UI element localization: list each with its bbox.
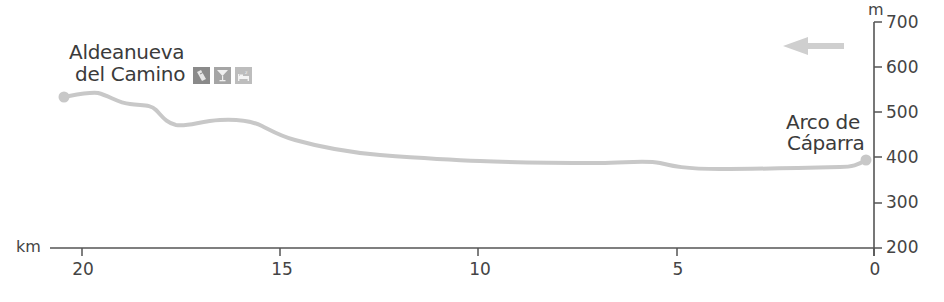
y-axis-unit: m — [868, 0, 884, 19]
y-axis-ticks — [874, 22, 882, 248]
y-tick-300: 300 — [886, 192, 918, 212]
end-location-label-line2: Cáparra — [787, 133, 864, 154]
elevation-line — [64, 93, 866, 169]
y-tick-200: 200 — [886, 237, 918, 257]
end-point-marker — [861, 155, 872, 166]
x-tick-0: 0 — [870, 259, 881, 279]
elevation-profile-chart: Aldeanueva del Camino z — [0, 0, 944, 302]
svg-text:z: z — [245, 70, 248, 75]
x-tick-10: 10 — [469, 259, 491, 279]
direction-arrow-icon — [783, 37, 844, 55]
x-tick-5: 5 — [673, 259, 684, 279]
service-icons: z — [193, 67, 252, 84]
end-location-label-line1: Arco de — [786, 112, 860, 133]
y-tick-700: 700 — [886, 12, 918, 32]
x-tick-15: 15 — [271, 259, 293, 279]
x-axis-ticks — [82, 248, 874, 256]
lodging-icon: z — [235, 67, 252, 84]
start-location-label-line2: del Camino — [75, 64, 185, 85]
start-location-label-line1: Aldeanueva — [69, 42, 184, 63]
y-tick-400: 400 — [886, 147, 918, 167]
y-tick-500: 500 — [886, 102, 918, 122]
y-tick-600: 600 — [886, 57, 918, 77]
x-tick-20: 20 — [72, 259, 94, 279]
x-axis-unit: km — [16, 237, 41, 256]
start-point-marker — [59, 92, 70, 103]
food-icon — [193, 67, 210, 84]
bar-icon — [214, 67, 231, 84]
